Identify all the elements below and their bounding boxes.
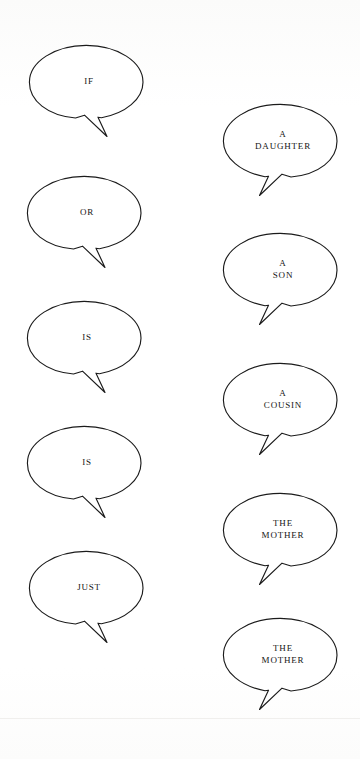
speech-balloon-if[interactable]: IF (28, 44, 150, 148)
speech-balloon-just[interactable]: JUST (28, 550, 150, 654)
speech-balloon-is-2[interactable]: IS (26, 425, 148, 529)
speech-balloon-or[interactable]: OR (26, 175, 148, 279)
balloon-outline (29, 551, 143, 642)
balloon-outline (223, 363, 337, 454)
balloon-outline (223, 618, 337, 709)
balloon-outline (223, 493, 337, 584)
balloon-outline (223, 233, 337, 324)
speech-balloon-the-mother-1[interactable]: THE MOTHER (222, 492, 344, 596)
comic-page: IF OR IS IS JUST A DAUGHTER (0, 0, 360, 759)
speech-balloon-a-cousin[interactable]: A COUSIN (222, 362, 344, 466)
speech-balloon-is-1[interactable]: IS (26, 300, 148, 404)
balloon-outline (27, 426, 141, 517)
speech-balloon-a-daughter[interactable]: A DAUGHTER (222, 103, 344, 207)
balloon-outline (27, 301, 141, 392)
balloon-outline (223, 104, 337, 195)
balloon-outline (27, 176, 141, 267)
speech-balloon-the-mother-2[interactable]: THE MOTHER (222, 617, 344, 721)
speech-balloon-a-son[interactable]: A SON (222, 232, 344, 336)
balloon-outline (29, 45, 143, 136)
